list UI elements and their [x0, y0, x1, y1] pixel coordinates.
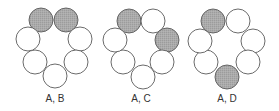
empty-circle-lower-left [194, 50, 218, 74]
filled-circle-bottom [215, 65, 239, 89]
empty-circle-right [68, 27, 92, 51]
ring-group-1: A, B [16, 8, 92, 104]
filled-circle-right [155, 28, 179, 52]
ring-group-3: A, D [188, 9, 265, 104]
group-label: A, D [217, 93, 236, 104]
empty-circle-top-right [226, 9, 250, 33]
ring-group-2: A, C [103, 9, 179, 104]
empty-circle-bottom [43, 64, 67, 88]
empty-circle-lower-right [150, 50, 174, 74]
empty-circle-left [188, 29, 212, 53]
empty-circle-left [103, 28, 127, 52]
group-label: A, B [46, 93, 65, 104]
group-label: A, C [131, 93, 150, 104]
empty-circle-lower-left [111, 50, 135, 74]
empty-circle-left [16, 27, 40, 51]
empty-circle-lower-left [23, 50, 47, 74]
empty-circle-lower-right [236, 50, 260, 74]
filled-circle-top-left [201, 9, 225, 33]
empty-circle-right [241, 29, 265, 53]
circle-ring-diagram: A, BA, CA, D [0, 0, 279, 111]
empty-circle-lower-right [64, 50, 88, 74]
empty-circle-bottom [131, 65, 155, 89]
